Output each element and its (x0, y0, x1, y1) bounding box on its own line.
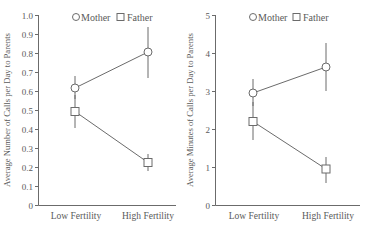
left-legend: Mother Father (73, 12, 154, 23)
left-mother-line (75, 52, 148, 88)
left-category-high-fertility: High Fertility (122, 211, 174, 221)
left-chart: Average Number of Calls per Day to Paren… (2, 11, 176, 222)
tick-label: 0.2 (22, 163, 33, 173)
left-father-point-low (71, 108, 79, 116)
legend-father: Father (127, 12, 153, 23)
mother-circle-icon (250, 14, 257, 21)
right-category-high-fertility: High Fertility (302, 211, 354, 221)
tick-label: 2 (206, 125, 211, 135)
left-y-ticks (35, 16, 39, 206)
right-mother-point-low (249, 89, 257, 97)
right-father-point-low (249, 118, 257, 126)
tick-label: 4 (206, 49, 211, 59)
figure: Average Number of Calls per Day to Paren… (0, 0, 366, 227)
right-legend: Mother Father (250, 12, 330, 23)
right-y-axis-label: Average Minutes of Calls per Day to Pare… (185, 32, 195, 186)
left-mother-point-high (144, 48, 152, 56)
right-category-low-fertility: Low Fertility (229, 211, 280, 221)
tick-label: 0.9 (22, 30, 34, 40)
mother-circle-icon (73, 14, 80, 21)
tick-label: 0.6 (22, 87, 34, 97)
father-square-icon (117, 14, 124, 21)
tick-label: 0 (206, 201, 211, 211)
left-father-point-high (144, 159, 152, 167)
right-father-line (253, 122, 326, 170)
legend-mother: Mother (81, 12, 111, 23)
tick-label: 0.4 (22, 125, 34, 135)
tick-label: 0 (29, 201, 34, 211)
right-father-point-high (322, 165, 330, 173)
tick-label: 3 (206, 87, 211, 97)
legend-mother: Mother (258, 12, 288, 23)
right-y-ticks (212, 16, 216, 206)
legend-father: Father (303, 12, 329, 23)
left-father-line (75, 112, 148, 163)
tick-label: 0.8 (22, 49, 34, 59)
tick-label: 5 (206, 11, 211, 21)
left-error-bars (75, 27, 148, 171)
left-y-tick-labels: 0 0.1 0.2 0.3 0.4 0.5 0.6 0.7 0.8 0.9 1.… (22, 11, 34, 211)
tick-label: 0.3 (22, 144, 34, 154)
father-square-icon (293, 14, 300, 21)
tick-label: 0.5 (22, 106, 34, 116)
tick-label: 0.7 (22, 68, 34, 78)
right-mother-line (253, 67, 326, 93)
tick-label: 1 (206, 163, 211, 173)
left-y-axis-label: Average Number of Calls per Day to Paren… (2, 32, 12, 186)
right-chart: Average Minutes of Calls per Day to Pare… (185, 11, 360, 222)
tick-label: 0.1 (22, 182, 33, 192)
right-y-tick-labels: 0 1 2 3 4 5 (206, 11, 211, 211)
tick-label: 1.0 (22, 11, 34, 21)
right-mother-point-high (322, 63, 330, 71)
left-mother-point-low (71, 84, 79, 92)
left-category-low-fertility: Low Fertility (51, 211, 102, 221)
